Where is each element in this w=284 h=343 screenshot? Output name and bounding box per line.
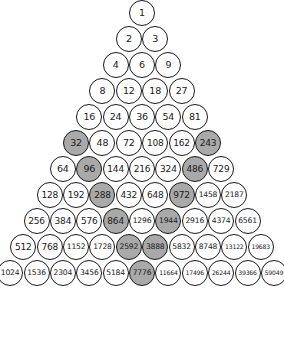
pyramid-cell-shaded: 3888 [142,234,168,260]
pyramid-cell-value: 9 [165,60,171,70]
pyramid-cell-value: 384 [55,217,72,226]
pyramid-cell-value: 2304 [54,269,73,277]
pyramid-cell-value: 1536 [27,269,46,277]
pyramid-cell-value: 1458 [199,191,218,199]
pyramid-cell: 24 [103,104,129,130]
pyramid-cell: 1728 [89,234,115,260]
pyramid-cell-value: 5184 [106,269,125,277]
pyramid-cell-value: 1296 [133,217,152,225]
pyramid-cell-shaded: 486 [182,156,208,182]
pyramid-cell-value: 3 [152,34,158,44]
pyramid-cell-value: 17496 [186,270,204,276]
pyramid-cell: 36 [129,104,155,130]
pyramid-cell-value: 16 [83,112,95,122]
pyramid-cell-value: 1024 [1,269,20,277]
pyramid-cell-value: 59049 [265,270,283,276]
pyramid-row: 324872108162243 [0,130,284,156]
pyramid-cell-value: 11664 [159,270,177,276]
pyramid-row: 469 [0,52,284,78]
pyramid-cell: 18 [142,78,168,104]
pyramid-cell-value: 324 [160,165,177,174]
pyramid-cell-value: 96 [83,164,95,174]
pyramid-cell: 16 [76,104,102,130]
pyramid-cell-value: 192 [68,191,85,200]
pyramid-cell: 5184 [103,260,129,286]
pyramid-cell: 1458 [195,182,221,208]
pyramid-cell-value: 19683 [251,244,269,250]
pyramid-cell: 59049 [261,260,284,286]
pyramid-cell: 2916 [182,208,208,234]
pyramid-cell: 324 [155,156,181,182]
pyramid-cell: 1536 [24,260,50,286]
pyramid-cell-shaded: 243 [195,130,221,156]
pyramid-cell-value: 1 [139,8,145,18]
pyramid-cell-value: 162 [173,139,190,148]
number-pyramid: 1234698121827162436548132487210816224364… [0,0,284,343]
pyramid-row: 23 [0,26,284,52]
pyramid-cell-shaded: 864 [103,208,129,234]
pyramid-row: 1624365481 [0,104,284,130]
pyramid-cell: 8 [89,78,115,104]
pyramid-cell: 81 [182,104,208,130]
pyramid-cell-value: 12 [123,86,135,96]
pyramid-cell: 162 [169,130,195,156]
pyramid-cell: 2187 [221,182,247,208]
pyramid-cell: 8748 [195,234,221,260]
pyramid-cell: 39366 [235,260,261,286]
pyramid-cell: 3 [142,26,168,52]
pyramid-cell: 576 [76,208,102,234]
pyramid-cell-value: 8748 [199,243,218,251]
pyramid-cell: 128 [37,182,63,208]
pyramid-cell-value: 5832 [172,243,191,251]
pyramid-cell: 4374 [208,208,234,234]
pyramid-cell-shaded: 288 [89,182,115,208]
pyramid-cell-value: 13122 [225,244,243,250]
pyramid-cell-shaded: 972 [169,182,195,208]
pyramid-row: 1 [0,0,284,26]
pyramid-cell: 108 [142,130,168,156]
pyramid-row: 12819228843264897214582187 [0,182,284,208]
pyramid-cell: 26244 [208,260,234,286]
pyramid-cell-value: 72 [123,138,135,148]
pyramid-cell: 48 [89,130,115,156]
pyramid-cell: 17496 [182,260,208,286]
pyramid-row: 5127681152172825923888583287481312219683 [0,234,284,260]
pyramid-cell: 64 [50,156,76,182]
pyramid-cell-value: 216 [134,165,151,174]
pyramid-cell: 1152 [63,234,89,260]
pyramid-cell: 4 [103,52,129,78]
pyramid-cell-shaded: 32 [63,130,89,156]
pyramid-cell-value: 39366 [238,270,256,276]
pyramid-cell-value: 4374 [212,217,231,225]
pyramid-cell-value: 1152 [67,243,86,251]
pyramid-cell-value: 3888 [146,243,165,251]
pyramid-cell: 648 [142,182,168,208]
pyramid-cell-value: 24 [110,112,122,122]
pyramid-cell-value: 81 [189,112,201,122]
pyramid-cell-value: 7776 [133,269,152,277]
pyramid-cell-value: 36 [136,112,148,122]
pyramid-cell-value: 18 [149,86,161,96]
pyramid-cell-value: 54 [163,112,175,122]
pyramid-cell-value: 128 [41,191,58,200]
pyramid-cell-value: 864 [107,217,124,226]
pyramid-cell-value: 486 [186,165,203,174]
pyramid-cell-shaded: 1944 [155,208,181,234]
pyramid-cell-value: 288 [94,191,111,200]
pyramid-cell-value: 32 [70,138,82,148]
pyramid-cell: 1024 [0,260,23,286]
pyramid-cell-value: 972 [173,191,190,200]
pyramid-cell-value: 2187 [225,191,244,199]
pyramid-cell: 1 [129,0,155,26]
pyramid-cell: 5832 [169,234,195,260]
pyramid-cell-value: 1728 [93,243,112,251]
pyramid-cell-value: 648 [147,191,164,200]
pyramid-cell: 1296 [129,208,155,234]
pyramid-cell: 256 [24,208,50,234]
pyramid-cell: 3456 [76,260,102,286]
pyramid-cell-shaded: 2592 [116,234,142,260]
pyramid-cell-shaded: 96 [76,156,102,182]
pyramid-cell: 512 [10,234,36,260]
pyramid-cell: 2 [116,26,142,52]
pyramid-cell-value: 432 [121,191,138,200]
